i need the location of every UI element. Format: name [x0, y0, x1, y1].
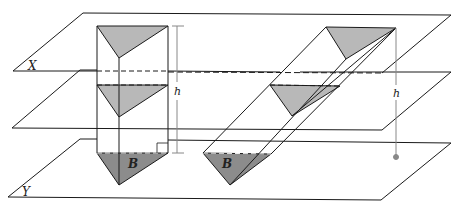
label-height-right: h [393, 87, 400, 100]
plane-x [13, 13, 451, 73]
plane-middle [12, 70, 451, 130]
label-plane-x: X [27, 59, 37, 73]
label-base-right: B [221, 157, 232, 171]
label-height-left: h [174, 85, 181, 98]
label-plane-y: Y [22, 185, 31, 199]
prism-diagram: X Y h h B B [0, 0, 459, 205]
label-base-left: B [127, 157, 138, 171]
